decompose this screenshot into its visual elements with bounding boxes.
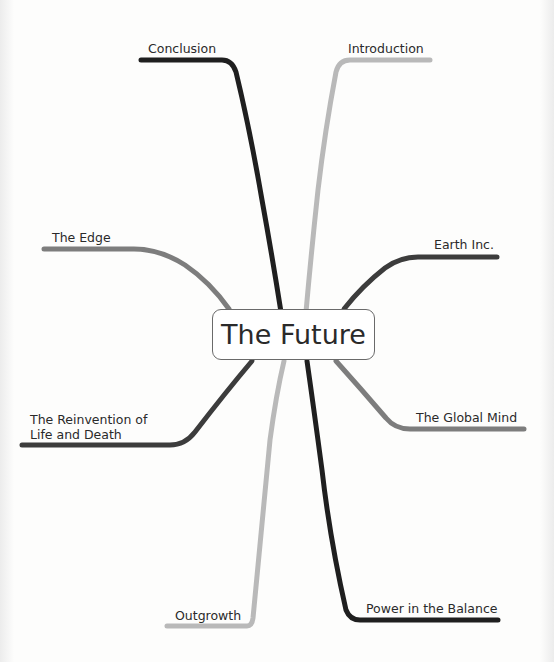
central-topic-label: The Future [221, 319, 366, 350]
branch-label-outgrowth[interactable]: Outgrowth [175, 608, 241, 623]
branch-line-the-edge [44, 249, 229, 309]
branch-label-conclusion[interactable]: Conclusion [148, 41, 216, 56]
branch-label-power[interactable]: Power in the Balance [366, 601, 497, 616]
branch-label-global-mind[interactable]: The Global Mind [416, 410, 517, 425]
branch-label-introduction[interactable]: Introduction [348, 41, 424, 56]
branch-label-the-edge[interactable]: The Edge [52, 230, 111, 245]
branch-label-reinvention-line-2: Life and Death [30, 427, 147, 442]
branch-label-earth-inc[interactable]: Earth Inc. [434, 237, 494, 252]
branch-label-reinvention[interactable]: The Reinvention of Life and Death [30, 412, 147, 442]
branch-line-conclusion [141, 60, 281, 312]
branch-label-reinvention-line-1: The Reinvention of [30, 412, 147, 427]
branch-line-earth-inc [344, 257, 497, 309]
branch-line-introduction [306, 60, 430, 312]
branch-line-power [307, 361, 498, 620]
central-topic-node[interactable]: The Future [212, 309, 375, 360]
branch-line-outgrowth [167, 361, 284, 626]
